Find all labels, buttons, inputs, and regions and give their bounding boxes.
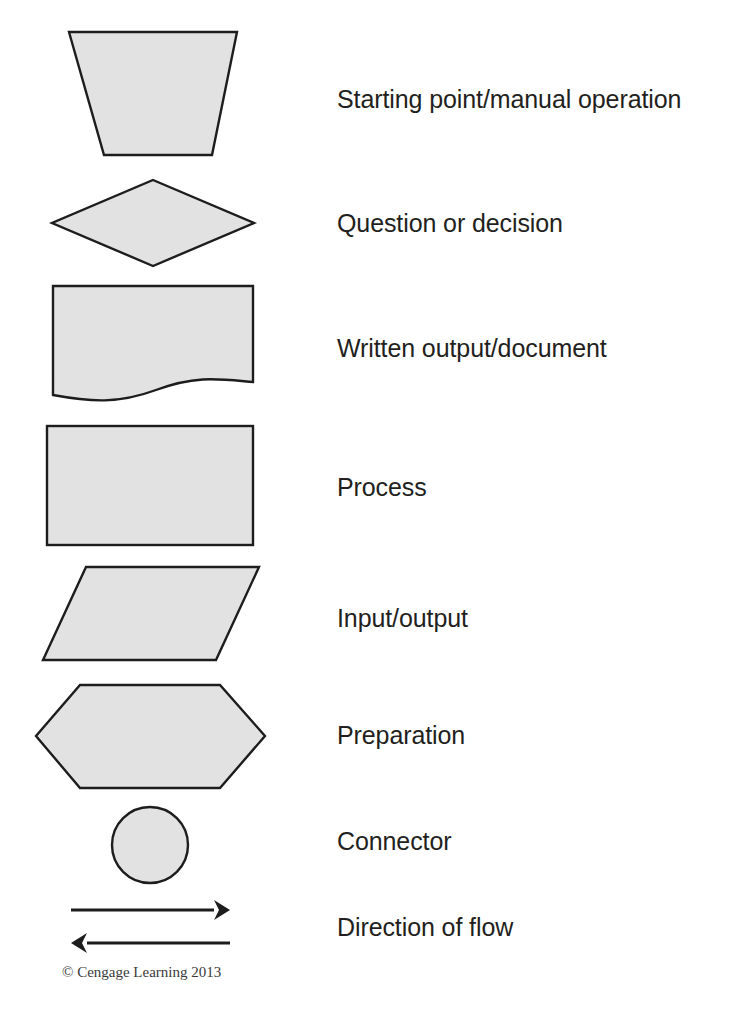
parallelogram-shape bbox=[36, 560, 272, 672]
double-arrow-shape bbox=[64, 896, 244, 962]
legend-label-flow: Direction of flow bbox=[337, 913, 513, 941]
legend-label-start: Starting point/manual operation bbox=[337, 85, 681, 113]
flowchart-symbol-legend: Starting point/manual operation Question… bbox=[0, 0, 751, 1035]
copyright-notice: © Cengage Learning 2013 bbox=[62, 963, 221, 981]
diamond-shape bbox=[45, 174, 261, 272]
arrow-right-icon bbox=[71, 900, 230, 920]
rectangle-shape bbox=[40, 419, 264, 553]
arrow-left-icon bbox=[71, 933, 230, 953]
legend-label-connector: Connector bbox=[337, 827, 451, 855]
document-wavy-bottom-shape bbox=[46, 279, 262, 407]
inverted-trapezoid-shape bbox=[62, 26, 244, 162]
legend-label-preparation: Preparation bbox=[337, 721, 465, 749]
circle-shape bbox=[104, 799, 196, 891]
legend-label-process: Process bbox=[337, 473, 427, 501]
legend-label-decision: Question or decision bbox=[337, 209, 563, 237]
hexagon-shape bbox=[29, 678, 273, 795]
legend-label-document: Written output/document bbox=[337, 334, 607, 362]
legend-label-inputoutput: Input/output bbox=[337, 604, 468, 632]
